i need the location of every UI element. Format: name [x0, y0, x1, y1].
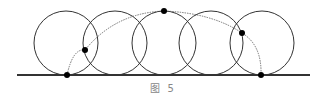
point-5 — [258, 72, 264, 78]
cycloid-curve — [67, 11, 261, 75]
point-4 — [239, 30, 245, 36]
point-1 — [64, 72, 70, 78]
rolling-circles — [34, 11, 294, 75]
circle-5 — [230, 11, 294, 75]
circle-2 — [83, 11, 147, 75]
circle-4 — [179, 11, 243, 75]
figure-caption: 图 5 — [0, 80, 326, 95]
circle-1 — [34, 11, 98, 75]
circle-3 — [132, 11, 196, 75]
point-2 — [82, 47, 88, 53]
point-3 — [161, 8, 167, 14]
